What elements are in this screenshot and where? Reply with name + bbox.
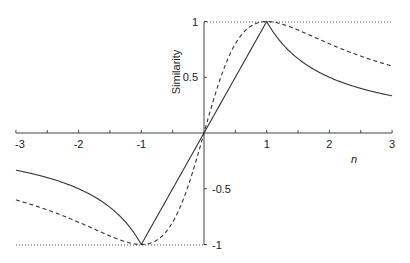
x-axis-title: n (351, 153, 357, 165)
x-tick-label: 2 (326, 138, 332, 150)
x-tick-label: -3 (15, 138, 25, 150)
y-tick-label: -1 (212, 239, 222, 251)
x-tick-label: -2 (74, 138, 84, 150)
x-tick-label: 3 (389, 138, 395, 150)
y-tick-label: 1 (192, 16, 198, 28)
y-tick-label: 0.5 (183, 71, 198, 83)
x-tick-label: 1 (264, 138, 270, 150)
x-tick-label: -1 (136, 138, 146, 150)
y-tick-label: -0.5 (212, 183, 231, 195)
similarity-chart: -3-2-1123 10.5-0.5-1 Similarity n (0, 0, 410, 263)
y-axis-title: Similarity (170, 49, 182, 94)
